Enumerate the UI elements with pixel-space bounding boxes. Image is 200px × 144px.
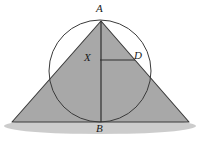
geometry-figure: A X D B: [0, 0, 200, 144]
vertex-label-b: B: [96, 123, 103, 134]
vertex-label-d: D: [134, 50, 142, 61]
vertex-label-x: X: [84, 52, 91, 63]
vertex-label-a: A: [96, 3, 103, 14]
